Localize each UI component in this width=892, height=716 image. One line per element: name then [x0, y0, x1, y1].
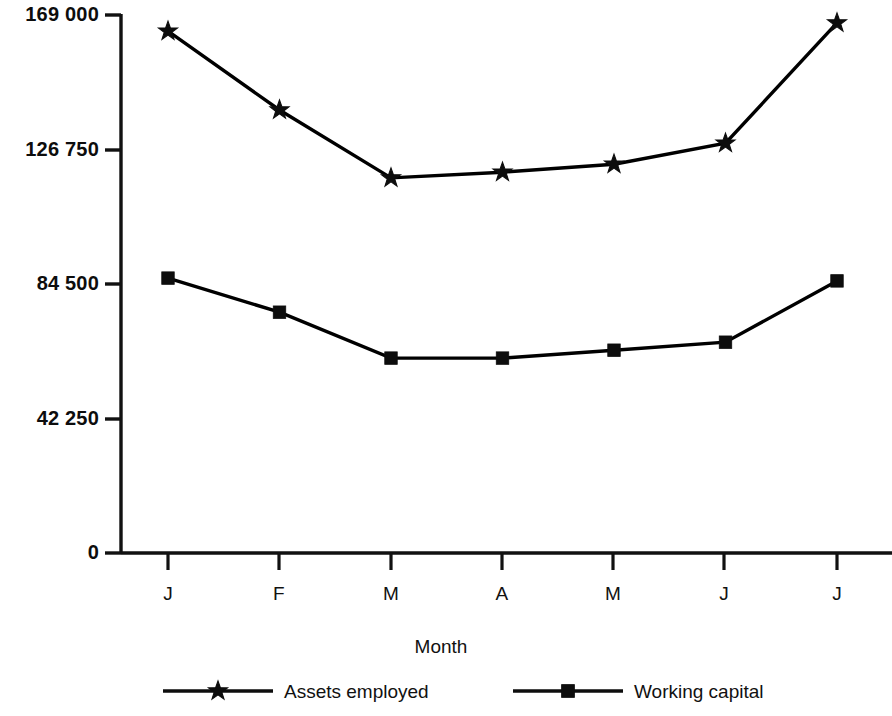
x-tick-label-apr: A: [482, 583, 522, 605]
y-tick-label-0: 0: [88, 541, 99, 564]
legend-label-assets-employed: Assets employed: [284, 681, 429, 703]
x-axis: [121, 553, 892, 570]
data-point-J: [831, 275, 843, 287]
x-tick-label-jul: J: [817, 583, 857, 605]
y-tick-label-42250: 42 250: [37, 407, 99, 430]
y-tick-label-126750: 126 750: [25, 138, 99, 161]
x-tick-label-jun: J: [704, 583, 744, 605]
data-point-M: [382, 168, 401, 186]
series-line-assets-employed: [168, 23, 837, 178]
data-point-M: [608, 344, 620, 356]
chart-plot-area: [0, 0, 892, 716]
series-markers-working-capital: [162, 272, 843, 364]
x-tick-label-jan: J: [148, 583, 188, 605]
line-chart: 169 000 126 750 84 500 42 250 0 J F M A …: [0, 0, 892, 716]
y-axis: [105, 14, 121, 554]
legend-swatch-working-capital: [513, 685, 623, 698]
data-point-F: [273, 306, 285, 318]
y-tick-label-84500: 84 500: [37, 272, 99, 295]
data-point-A: [496, 352, 508, 364]
x-tick-label-may: M: [593, 583, 633, 605]
series-line-working-capital: [168, 278, 837, 358]
x-tick-label-mar: M: [371, 583, 411, 605]
y-tick-label-169000: 169 000: [25, 3, 99, 26]
x-axis-title: Month: [381, 636, 501, 658]
data-point-M: [385, 352, 397, 364]
legend-swatch-assets-employed: [163, 681, 273, 699]
data-point-A: [493, 162, 512, 180]
data-point-M: [605, 154, 624, 172]
data-point-J: [162, 272, 174, 284]
x-tick-label-feb: F: [259, 583, 299, 605]
legend-label-working-capital: Working capital: [634, 681, 764, 703]
data-point-J: [719, 336, 731, 348]
